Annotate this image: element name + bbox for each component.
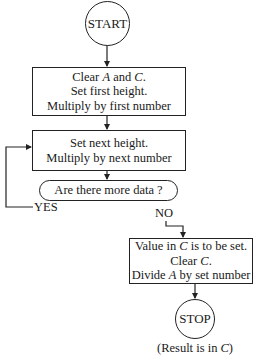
step1-line2: Set first height. — [71, 84, 148, 99]
step2-process-box: Set next height. Multiply by next number — [32, 130, 186, 171]
step2-line1: Set next height. — [70, 136, 148, 151]
no-label: NO — [155, 206, 173, 221]
arrow-no-to-step3 — [166, 221, 183, 237]
step3-line3: Divide A by set number — [132, 268, 251, 283]
step1-line1: Clear A and C. — [72, 70, 146, 85]
start-terminal: START — [85, 1, 130, 46]
step1-line3: Multiply by first number — [47, 99, 171, 114]
step3-line2: Clear C. — [170, 254, 212, 269]
arrow-yes-loop — [6, 147, 33, 207]
yes-label: YES — [34, 200, 58, 215]
step2-line2: Multiply by next number — [46, 151, 171, 166]
step3-line1: Value in C is to be set. — [135, 239, 247, 254]
flowchart-connectors — [0, 0, 268, 358]
stop-label: STOP — [179, 311, 211, 327]
decision-label: Are there more data ? — [54, 183, 162, 198]
stop-terminal: STOP — [175, 299, 215, 339]
decision-more-data: Are there more data ? — [39, 180, 178, 201]
step1-process-box: Clear A and C. Set first height. Multipl… — [32, 67, 186, 116]
step3-process-box: Value in C is to be set. Clear C. Divide… — [129, 238, 253, 284]
result-note: (Result is in C) — [140, 341, 250, 356]
start-label: START — [88, 16, 127, 32]
